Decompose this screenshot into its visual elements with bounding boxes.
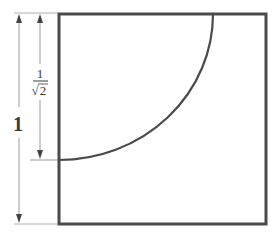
radical-sign: √: [31, 83, 39, 98]
unit-square: [59, 14, 266, 224]
arrow-up-icon: [16, 14, 22, 23]
inner-label-denominator: 2: [40, 83, 47, 98]
diagram-canvas: 1 √ 2 1: [0, 0, 278, 235]
arrow-down-icon: [16, 214, 22, 223]
quarter-circle-arc: [59, 14, 213, 160]
arrow-down-icon: [37, 150, 43, 159]
outer-label: 1: [13, 113, 23, 135]
inner-label-numerator: 1: [37, 66, 44, 81]
arrow-up-icon: [37, 14, 43, 23]
